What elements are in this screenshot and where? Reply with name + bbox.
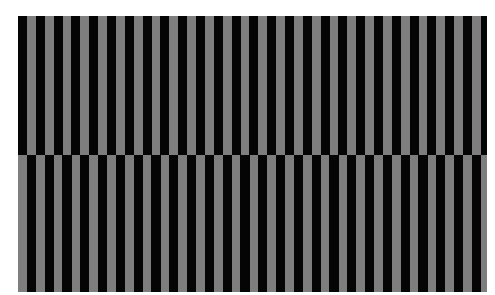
light-stripe [294, 16, 303, 155]
light-stripe [152, 16, 161, 155]
light-stripe [80, 16, 89, 155]
light-stripe [463, 155, 472, 292]
light-stripe [196, 155, 205, 292]
light-stripe [303, 155, 312, 292]
light-stripe [250, 155, 259, 292]
light-stripe [285, 155, 294, 292]
light-stripe [472, 16, 481, 155]
light-stripe [321, 155, 330, 292]
light-stripe [445, 155, 454, 292]
top-stripe-band [18, 16, 487, 155]
light-stripe [267, 155, 276, 292]
light-stripe [312, 16, 321, 155]
light-stripe [436, 16, 445, 155]
light-stripe [241, 16, 250, 155]
light-stripe [223, 16, 232, 155]
light-stripe [419, 16, 428, 155]
light-stripe [356, 155, 365, 292]
light-stripe [187, 16, 196, 155]
light-stripe [392, 155, 401, 292]
light-stripe [63, 16, 72, 155]
light-stripe [347, 16, 356, 155]
bottom-stripe-band [18, 155, 487, 292]
light-stripe [161, 155, 170, 292]
light-stripe [214, 155, 223, 292]
light-stripe [169, 16, 178, 155]
light-stripe [178, 155, 187, 292]
light-stripe [107, 155, 116, 292]
light-stripe [428, 155, 437, 292]
light-stripe [276, 16, 285, 155]
light-stripe [365, 16, 374, 155]
light-stripe [134, 16, 143, 155]
light-stripe [72, 155, 81, 292]
light-stripe [36, 155, 45, 292]
light-stripe [98, 16, 107, 155]
light-stripe [454, 16, 463, 155]
light-stripe [116, 16, 125, 155]
light-stripe [374, 155, 383, 292]
light-stripe [54, 155, 63, 292]
light-stripe [481, 155, 487, 292]
light-stripe [205, 16, 214, 155]
light-stripe [45, 16, 54, 155]
light-stripe [125, 155, 134, 292]
light-stripe [143, 155, 152, 292]
light-stripe [410, 155, 419, 292]
light-stripe [18, 155, 27, 292]
light-stripe [258, 16, 267, 155]
light-stripe [232, 155, 241, 292]
stripe-pattern-figure [18, 16, 487, 292]
light-stripe [330, 16, 339, 155]
light-stripe [27, 16, 36, 155]
light-stripe [401, 16, 410, 155]
light-stripe [89, 155, 98, 292]
light-stripe [383, 16, 392, 155]
light-stripe [339, 155, 348, 292]
